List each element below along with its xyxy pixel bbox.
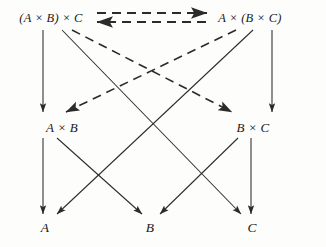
node-a: A: [41, 221, 49, 235]
edge-right-to-a: [57, 30, 253, 214]
node-b: B: [146, 221, 154, 235]
node-ab: A × B: [46, 121, 78, 134]
node-assoc-right: A × (B × C): [218, 12, 281, 25]
node-assoc-left: (A × B) × C: [19, 12, 82, 25]
node-bc: B × C: [237, 121, 270, 134]
edge-left-to-c: [62, 30, 241, 214]
edge-right-to-ab: [66, 30, 236, 112]
node-c: C: [247, 221, 256, 235]
edge-bc-to-b: [160, 138, 238, 214]
commutative-diagram: (A × B) × C A × (B × C) A × B B × C A B …: [0, 0, 326, 247]
